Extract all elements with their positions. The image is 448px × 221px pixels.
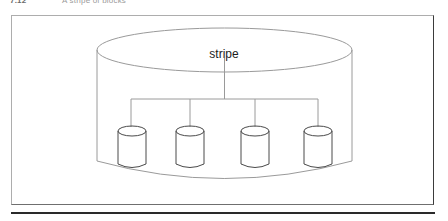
figure-page: 7.12 A stripe of blocks [0, 0, 448, 221]
figure-caption-text: A stripe of blocks [62, 0, 126, 5]
stripe-label: stripe [0, 47, 448, 61]
figure-caption-strip: 7.12 A stripe of blocks [0, 0, 448, 7]
page-rule [11, 212, 435, 214]
figure-frame [11, 15, 434, 205]
figure-caption-number: 7.12 [10, 0, 26, 5]
